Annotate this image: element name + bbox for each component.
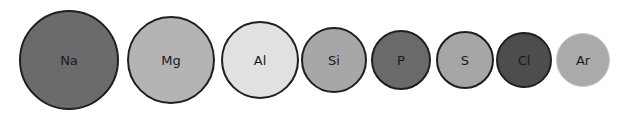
atomic-radii-diagram: Na Mg Al Si P S Cl Ar xyxy=(0,0,628,117)
atom-symbol: S xyxy=(461,54,469,67)
atom-symbol: Si xyxy=(328,54,340,67)
atom-circle-mg: Mg xyxy=(127,16,215,104)
atom-symbol: Ar xyxy=(576,54,590,67)
atom-circle-al: Al xyxy=(221,21,299,99)
atom-circle-na: Na xyxy=(19,10,119,110)
atom-circle-p: P xyxy=(371,30,431,90)
atom-symbol: Cl xyxy=(518,54,531,67)
atom-circle-si: Si xyxy=(301,27,367,93)
atom-circle-cl: Cl xyxy=(496,32,552,88)
atom-circle-s: S xyxy=(436,31,494,89)
atom-circle-ar: Ar xyxy=(556,33,610,87)
atom-symbol: Na xyxy=(60,54,78,67)
atom-symbol: Mg xyxy=(161,54,180,67)
atom-symbol: Al xyxy=(254,54,267,67)
atom-symbol: P xyxy=(397,54,405,67)
